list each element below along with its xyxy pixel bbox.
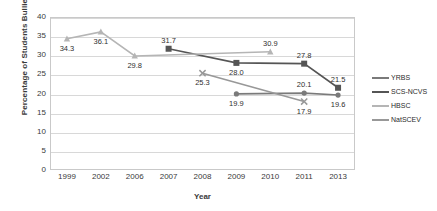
series-line-yrbs xyxy=(236,93,338,95)
y-axis-tick-labels: 0510152025303540 xyxy=(0,17,46,170)
x-tick-label: 2013 xyxy=(329,172,347,181)
legend-key-icon xyxy=(372,73,389,82)
x-tick-label: 2006 xyxy=(126,172,144,181)
data-point-marker xyxy=(301,61,307,67)
y-tick-label: 15 xyxy=(2,108,46,117)
data-label: 19.9 xyxy=(229,98,244,107)
x-tick-label: 2010 xyxy=(261,172,279,181)
data-label: 36.1 xyxy=(94,36,109,45)
y-tick-label: 40 xyxy=(2,12,46,21)
data-label: 29.8 xyxy=(127,61,142,70)
data-point-marker xyxy=(335,92,340,97)
legend-item-hbsc[interactable]: HBSC xyxy=(372,100,437,111)
data-point-marker xyxy=(166,46,172,52)
data-label: 34.3 xyxy=(60,43,75,52)
data-point-marker xyxy=(302,91,307,96)
x-axis-tick-labels: 199920022006200720082009201020112013 xyxy=(50,172,355,186)
data-label: 17.9 xyxy=(297,106,312,115)
legend-item-label: HBSC xyxy=(391,102,410,109)
y-tick-label: 30 xyxy=(2,50,46,59)
y-tick-label: 25 xyxy=(2,69,46,78)
legend-item-scs-ncvs[interactable]: SCS-NCVS xyxy=(372,86,437,97)
data-label: 20.1 xyxy=(297,80,312,89)
data-point-marker xyxy=(335,85,341,91)
legend-item-label: NatSCEV xyxy=(391,116,421,123)
legend-item-label: SCS-NCVS xyxy=(391,88,427,95)
x-tick-label: 2008 xyxy=(194,172,212,181)
legend-item-yrbs[interactable]: YRBS xyxy=(372,72,437,83)
y-tick-label: 5 xyxy=(2,146,46,155)
series-line-natscev xyxy=(203,73,305,101)
bullying-prevalence-line-chart: Percentage of Students Bullied 051015202… xyxy=(0,0,437,211)
x-tick-label: 2007 xyxy=(160,172,178,181)
legend-item-label: YRBS xyxy=(391,74,410,81)
x-tick-label: 2011 xyxy=(296,172,313,181)
chart-legend: YRBSSCS-NCVSHBSCNatSCEV xyxy=(372,72,437,128)
data-label: 28.0 xyxy=(229,67,244,76)
y-tick-label: 35 xyxy=(2,31,46,40)
y-tick-label: 0 xyxy=(2,165,46,174)
y-tick-label: 20 xyxy=(2,89,46,98)
data-point-marker xyxy=(233,60,239,66)
data-point-marker xyxy=(234,91,239,96)
legend-key-icon xyxy=(372,101,389,110)
data-label: 19.6 xyxy=(331,100,346,109)
y-tick-label: 10 xyxy=(2,127,46,136)
x-tick-label: 1999 xyxy=(58,172,76,181)
data-label: 31.7 xyxy=(161,35,176,44)
x-axis-title: Year xyxy=(50,192,355,201)
legend-item-natscev[interactable]: NatSCEV xyxy=(372,114,437,125)
data-label: 21.5 xyxy=(331,74,346,83)
data-label: 30.9 xyxy=(263,38,278,47)
data-label: 25.3 xyxy=(195,78,210,87)
data-point-marker xyxy=(98,29,104,35)
x-tick-label: 2009 xyxy=(227,172,245,181)
x-tick-label: 2002 xyxy=(92,172,110,181)
legend-key-icon xyxy=(372,115,389,124)
data-label: 27.8 xyxy=(297,50,312,59)
legend-key-icon xyxy=(372,87,389,96)
